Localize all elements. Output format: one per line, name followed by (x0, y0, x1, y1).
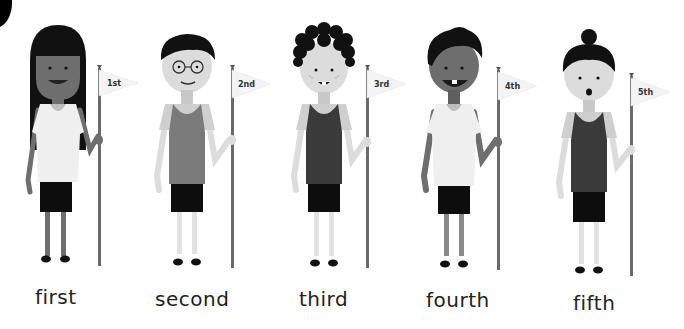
flag-label-third: 3rd (374, 80, 389, 89)
figure-third-drawing (280, 0, 410, 329)
ordinal-word-fourth: fourth (426, 288, 490, 312)
figure-first-drawing (10, 0, 140, 329)
figure-third: 3rd third (280, 0, 410, 329)
figure-first: 1st first (10, 0, 140, 329)
flag-label-fifth: 5th (638, 88, 653, 97)
flag-label-second: 2nd (238, 80, 255, 89)
ordinal-illustration: 1st first (0, 0, 684, 329)
figure-second: 2nd second (143, 0, 273, 329)
ordinal-word-first: first (35, 285, 77, 309)
figure-second-drawing (143, 0, 273, 329)
ordinal-word-third: third (299, 287, 348, 311)
flag-label-first: 1st (107, 79, 121, 88)
ordinal-word-second: second (155, 287, 229, 311)
figure-fourth: 4th fourth (410, 0, 540, 329)
figure-fourth-drawing (410, 0, 540, 329)
figure-fifth-drawing (545, 0, 675, 329)
flag-label-fourth: 4th (505, 82, 520, 91)
figure-fifth: 5th fifth (545, 0, 675, 329)
ordinal-word-fifth: fifth (573, 291, 615, 315)
